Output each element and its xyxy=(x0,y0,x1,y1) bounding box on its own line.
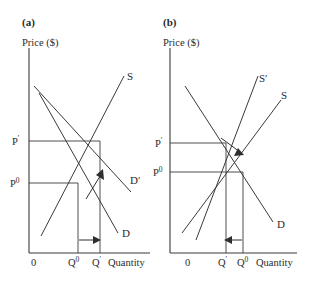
panel-b-supply-shifted-curve-label: S′ xyxy=(259,72,268,84)
panel-b-y-axis-title: Price ($) xyxy=(163,37,200,49)
panel-b-demand-curve xyxy=(185,86,273,222)
panel-b-quantity-prime-label: Q′ xyxy=(218,255,228,268)
panel-b-label: (b) xyxy=(163,16,177,29)
panel-b-origin-label: 0 xyxy=(185,257,190,268)
panel-b-supply-curve xyxy=(182,100,281,233)
panel-b-supply-curve-label: S xyxy=(281,89,287,101)
economics-supply-demand-figure: (a) Price ($) Quantity 0 P′ P0 Q0 Q′ S D… xyxy=(0,0,312,288)
panel-b-quantity-arrow xyxy=(224,236,242,244)
panel-b-supply-shifted-curve xyxy=(196,76,258,240)
panel-b-price-zero-label: P0 xyxy=(153,165,163,178)
panel-b-x-axis-title: Quantity xyxy=(256,257,293,268)
panel-b-demand-curve-label: D xyxy=(277,218,285,230)
panel-b: (b) Price ($) Quantity 0 P′ P0 Q′ Q0 S′ … xyxy=(0,0,312,288)
panel-b-quantity-zero-label: Q0 xyxy=(237,255,249,268)
panel-b-price-prime-label: P′ xyxy=(155,136,163,149)
